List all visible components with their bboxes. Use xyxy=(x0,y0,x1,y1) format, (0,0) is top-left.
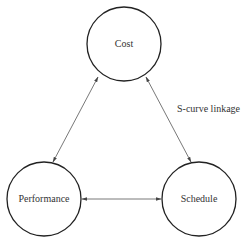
node-cost: Cost xyxy=(87,7,161,81)
node-performance: Performance xyxy=(7,162,81,236)
node-performance-label: Performance xyxy=(18,193,70,204)
s-curve-linkage-label: S-curve linkage xyxy=(177,103,241,114)
edge-cost-performance xyxy=(53,77,98,162)
edge-cost-schedule xyxy=(146,77,191,162)
triple-constraint-diagram: Cost Performance Schedule S-curve linkag… xyxy=(0,0,244,246)
node-cost-label: Cost xyxy=(115,38,134,49)
node-schedule-label: Schedule xyxy=(181,193,218,204)
node-schedule: Schedule xyxy=(162,162,236,236)
